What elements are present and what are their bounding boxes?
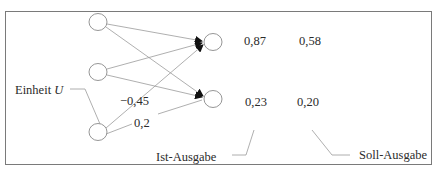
output-1-soll-value: 0,58 <box>299 35 321 48</box>
output-node-1 <box>204 34 222 51</box>
soll-ausgabe-label: Soll-Ausgabe <box>359 149 427 162</box>
unit-label-prefix: Einheit <box>15 83 54 97</box>
output-1-ist-value: 0,87 <box>244 35 266 48</box>
edge-in3-out1 <box>106 45 203 128</box>
unit-label-var: U <box>54 83 63 97</box>
weight-leader-line <box>158 100 202 114</box>
weight-label-2: 0,2 <box>134 117 150 130</box>
input-node-2 <box>89 64 107 81</box>
input-node-3 <box>89 124 107 141</box>
soll-leader-line <box>312 130 350 155</box>
output-node-2 <box>204 91 222 108</box>
edge-in1-out1 <box>107 24 202 41</box>
output-2-soll-value: 0,20 <box>297 96 319 109</box>
output-2-ist-value: 0,23 <box>245 96 267 109</box>
unit-leader-line <box>70 89 100 124</box>
ist-leader-line <box>232 130 254 155</box>
input-node-1 <box>89 14 107 31</box>
edge-in3-out2 <box>106 124 132 134</box>
edge-in2-out1 <box>107 43 202 69</box>
weight-label-1: −0,45 <box>120 95 149 108</box>
ist-ausgabe-label: Ist-Ausgabe <box>156 151 216 164</box>
unit-label: Einheit U <box>15 84 63 97</box>
